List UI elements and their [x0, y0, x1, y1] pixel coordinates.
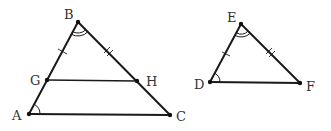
point-c [168, 113, 172, 117]
angle-d-arc [215, 73, 220, 82]
label-c: C [176, 109, 186, 124]
point-e [239, 22, 243, 26]
point-h [135, 79, 139, 83]
label-h: H [146, 74, 157, 89]
point-f [298, 81, 302, 85]
label-f: F [306, 79, 315, 94]
angle-b-arc-inner [73, 30, 86, 33]
label-e: E [227, 10, 237, 25]
point-a [27, 112, 31, 116]
geometry-figure: B A C G H E D F [0, 0, 331, 131]
side-ac [29, 114, 170, 115]
triangle-def: E D F [194, 10, 315, 94]
side-df [210, 82, 300, 83]
angle-a-arc [34, 104, 40, 114]
segment-gh [47, 80, 137, 81]
label-a: A [11, 108, 22, 123]
point-g [45, 78, 49, 82]
label-d: D [194, 77, 204, 92]
label-b: B [64, 7, 74, 22]
point-b [76, 20, 80, 24]
side-ab [29, 22, 78, 114]
side-bc [78, 22, 170, 115]
point-d [208, 80, 212, 84]
label-g: G [30, 73, 40, 88]
triangle-abc: B A C G H [11, 7, 186, 124]
